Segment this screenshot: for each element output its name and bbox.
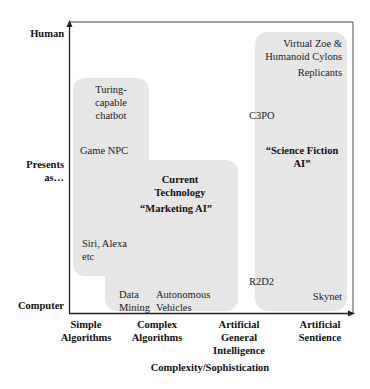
x-label-line: Algorithms [117, 331, 197, 344]
turing-chatbot-label: Turing- capable chatbot [80, 83, 142, 122]
marketing-ai-subtitle: “Marketing AI” [118, 202, 234, 215]
y-label-human: Human [2, 27, 64, 40]
y-label-presents: Presents [2, 158, 64, 171]
label-line: chatbot [80, 109, 142, 122]
x-label-line: Artificial [199, 318, 279, 331]
label-line: Turing- [80, 83, 142, 96]
label-line: etc [82, 250, 127, 263]
title-line: Current [130, 173, 230, 186]
label-line: Virtual Zoe & [250, 37, 342, 50]
label-line: Siri, Alexa [82, 237, 127, 250]
x-label-agi: Artificial General Intelligence [199, 318, 279, 357]
label-line: Data [119, 288, 150, 301]
title-line: AI” [258, 157, 346, 170]
x-label-complex-algorithms: Complex Algorithms [117, 318, 197, 344]
label-line: Autonomous [156, 288, 210, 301]
science-fiction-title: “Science Fiction AI” [258, 144, 346, 170]
game-npc-label: Game NPC [80, 144, 128, 157]
x-label-line: General [199, 331, 279, 344]
virtual-zoe-label: Virtual Zoe & Humanoid Cylons [250, 37, 342, 63]
c3po-label: C3PO [249, 109, 275, 122]
skynet-label: Skynet [270, 290, 342, 303]
x-label-line: Simple [46, 318, 126, 331]
replicants-label: Replicants [250, 66, 342, 79]
x-label-line: Algorithms [46, 331, 126, 344]
siri-alexa-label: Siri, Alexa etc [82, 237, 127, 263]
label-line: capable [80, 96, 142, 109]
current-technology-title: Current Technology [130, 173, 230, 199]
x-label-line: Sentience [280, 331, 360, 344]
x-label-simple-algorithms: Simple Algorithms [46, 318, 126, 344]
title-line: Technology [130, 186, 230, 199]
x-axis-title: Complexity/Sophistication [135, 361, 285, 374]
data-mining-label: Data Mining [119, 288, 150, 314]
x-label-line: Complex [117, 318, 197, 331]
label-line: Mining [119, 301, 150, 314]
y-axis-arrow-icon [67, 20, 73, 27]
y-label-computer: Computer [2, 299, 64, 312]
x-axis-arrow-icon [348, 311, 355, 317]
x-label-artificial-sentience: Artificial Sentience [280, 318, 360, 344]
r2d2-label: R2D2 [249, 275, 274, 288]
x-label-line: Artificial [280, 318, 360, 331]
title-line: “Science Fiction [258, 144, 346, 157]
x-label-line: Intelligence [199, 344, 279, 357]
y-label-as: as… [2, 171, 64, 184]
label-line: Humanoid Cylons [250, 50, 342, 63]
autonomous-vehicles-label: Autonomous Vehicles [156, 288, 210, 314]
label-line: Vehicles [156, 301, 210, 314]
